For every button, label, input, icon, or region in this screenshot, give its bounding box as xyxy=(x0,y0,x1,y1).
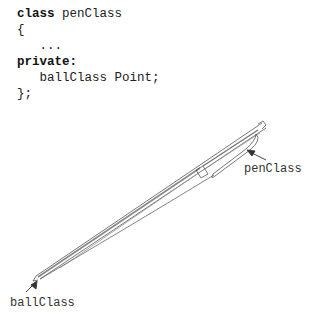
pen-class-label: penClass xyxy=(244,162,302,176)
pen-body-bottom-edge xyxy=(40,128,266,279)
pen-illustration-icon xyxy=(0,0,312,314)
ball-arrowhead-icon xyxy=(31,281,37,289)
ball-class-label: ballClass xyxy=(10,296,75,310)
pen-tip xyxy=(33,276,38,281)
pen-arrowhead-icon xyxy=(247,150,255,156)
pen-body-top-edge xyxy=(36,123,262,276)
